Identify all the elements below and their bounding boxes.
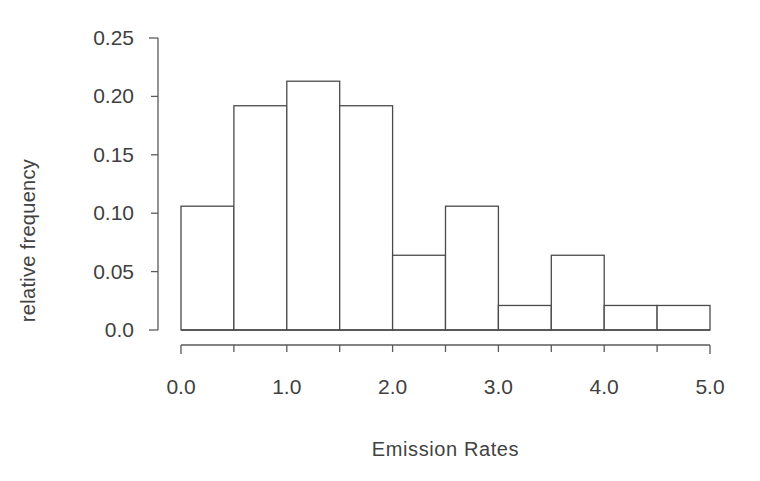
histogram-bar (498, 305, 551, 330)
histogram-figure: relative frequency 0.250.200.150.100.050… (0, 0, 760, 481)
histogram-bars (181, 81, 710, 330)
histogram-bar (446, 206, 499, 330)
histogram-bar (340, 106, 393, 330)
histogram-bar (657, 305, 710, 330)
plot-area (0, 0, 760, 481)
histogram-bar (393, 255, 446, 330)
histogram-bar (551, 255, 604, 330)
histogram-bar (181, 206, 234, 330)
histogram-bar (604, 305, 657, 330)
y-axis (149, 38, 158, 330)
histogram-bar (234, 106, 287, 330)
histogram-bar (287, 81, 340, 330)
x-axis (181, 345, 710, 354)
